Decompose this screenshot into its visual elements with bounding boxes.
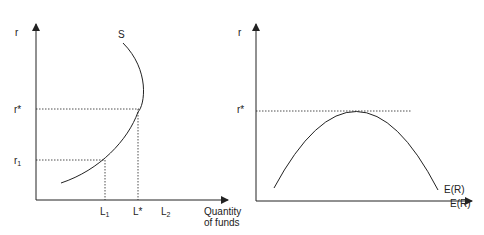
curve-label-s: S (118, 29, 125, 40)
tick-L1: L1 (100, 206, 110, 218)
curve-label-er: E(R) (444, 184, 465, 195)
tick-r-star: r* (14, 104, 21, 115)
right-panel: r r* E(R) E(R) (237, 24, 472, 209)
right-y-axis-label: r (238, 27, 242, 38)
left-y-axis-label: r (15, 27, 19, 38)
tick-r-star-right: r* (237, 104, 244, 115)
right-x-axis-label: E(R) (450, 198, 471, 209)
left-panel: r S r* r1 L1 L* L2 Quantity of funds (14, 24, 241, 228)
diagram-canvas: r S r* r1 L1 L* L2 Quantity of funds r r… (0, 0, 484, 235)
tick-L2: L2 (161, 206, 171, 218)
left-x-axis-label-line2: of funds (204, 217, 240, 228)
tick-r1: r1 (14, 155, 21, 167)
supply-curve (61, 43, 144, 183)
left-x-axis-label-line1: Quantity (204, 206, 241, 217)
tick-L-star: L* (133, 206, 143, 217)
expected-return-curve (274, 111, 438, 190)
